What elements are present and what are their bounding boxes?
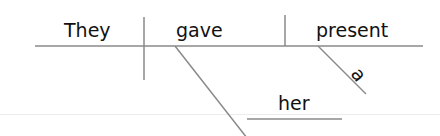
indirect-object-diagonal	[175, 46, 247, 136]
article-word: a	[347, 63, 372, 86]
verb-word: gave	[176, 19, 223, 41]
sentence-diagram: They gave present her a	[0, 0, 440, 136]
direct-object-word: present	[316, 19, 388, 41]
subject-word: They	[63, 19, 111, 41]
indirect-object-word: her	[278, 92, 310, 114]
